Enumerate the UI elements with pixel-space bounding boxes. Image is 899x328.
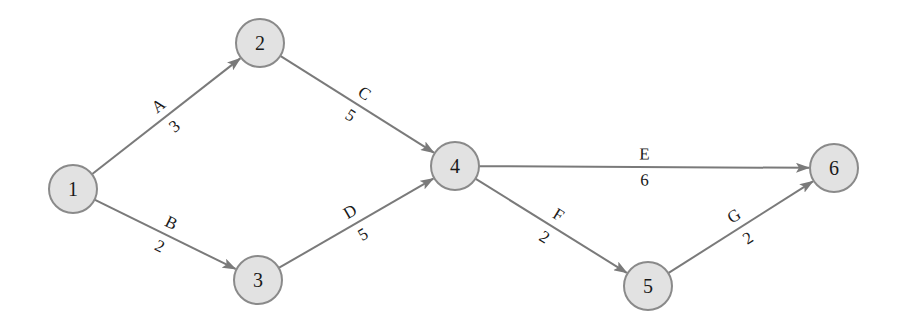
activity-label: G — [724, 205, 745, 228]
node-2: 2 — [236, 19, 284, 67]
edge-e: E6 — [479, 144, 809, 189]
node-4: 4 — [431, 142, 479, 190]
duration-label: 5 — [355, 224, 372, 245]
node-label: 2 — [255, 32, 265, 54]
duration-label: 2 — [739, 228, 756, 249]
node-3: 3 — [234, 256, 282, 304]
node-label: 3 — [253, 269, 263, 291]
arrow-line — [280, 56, 434, 153]
arrow-line — [279, 179, 434, 268]
node-label: 4 — [450, 155, 460, 177]
activity-label: D — [340, 200, 360, 223]
arrow-line — [668, 181, 813, 273]
arrow-line — [475, 179, 626, 273]
activity-label: A — [148, 94, 170, 117]
duration-label: 3 — [165, 116, 183, 136]
duration-label: 6 — [640, 170, 649, 189]
node-label: 6 — [829, 157, 839, 179]
node-1: 1 — [49, 165, 97, 213]
duration-label: 2 — [152, 236, 168, 257]
activity-label: B — [162, 212, 181, 234]
node-label: 5 — [643, 275, 653, 297]
nodes: 123456 — [49, 19, 858, 310]
edge-f: F2 — [475, 179, 626, 273]
edge-g: G2 — [668, 181, 813, 273]
edge-b: B2 — [95, 200, 236, 269]
duration-label: 2 — [536, 227, 553, 248]
activity-label: F — [549, 204, 567, 225]
node-5: 5 — [624, 262, 672, 310]
edge-a: A3 — [92, 58, 240, 174]
activity-label: C — [355, 82, 375, 104]
activity-label: E — [639, 144, 649, 163]
edge-d: D5 — [279, 179, 434, 268]
network-diagram: A3B2C5D5E6F2G2 123456 — [0, 0, 899, 328]
node-label: 1 — [68, 178, 78, 200]
arrow-line — [479, 166, 809, 168]
edge-c: C5 — [280, 56, 434, 153]
arrow-line — [95, 200, 236, 269]
node-6: 6 — [810, 144, 858, 192]
duration-label: 5 — [342, 105, 359, 126]
arrow-line — [92, 58, 240, 174]
